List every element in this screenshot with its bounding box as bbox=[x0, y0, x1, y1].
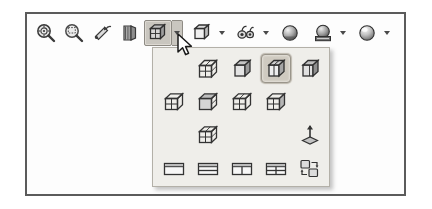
hide-show-items-icon bbox=[235, 22, 257, 44]
flyout-item-front-view[interactable] bbox=[227, 54, 257, 83]
flyout-item-normal-to[interactable] bbox=[193, 54, 223, 83]
flyout-item-single-view[interactable] bbox=[159, 154, 189, 183]
two-view-vertical-icon bbox=[230, 157, 254, 181]
hide-show-items-button[interactable] bbox=[232, 20, 260, 46]
flyout-cell-empty bbox=[227, 120, 257, 149]
chevron-down-icon bbox=[263, 31, 269, 35]
previous-view-button[interactable] bbox=[88, 20, 116, 46]
toolbar-item-view-orientation[interactable] bbox=[144, 19, 183, 47]
toolbar-item-zoom-to-area[interactable] bbox=[60, 19, 88, 47]
trimetric-view-icon bbox=[298, 57, 322, 81]
hide-show-items-dropdown-arrow[interactable] bbox=[260, 20, 271, 46]
view-toolbar bbox=[32, 18, 392, 48]
flyout-item-right-view[interactable] bbox=[227, 87, 257, 116]
view-settings-dropdown-arrow[interactable] bbox=[381, 20, 392, 46]
normal-to-axis-icon bbox=[298, 123, 322, 147]
view-orientation-button[interactable] bbox=[144, 20, 172, 46]
flyout-item-four-view[interactable] bbox=[261, 154, 291, 183]
view-orientation-dropdown-arrow[interactable] bbox=[172, 20, 183, 46]
flyout-item-normal-to-axis[interactable] bbox=[295, 120, 325, 149]
isometric-view-icon bbox=[264, 57, 288, 81]
single-view-icon bbox=[162, 157, 186, 181]
flyout-cell-empty bbox=[295, 87, 325, 116]
flyout-item-bottom-view[interactable] bbox=[193, 120, 223, 149]
top-view-icon bbox=[196, 90, 220, 114]
view-orientation-icon bbox=[147, 22, 169, 44]
left-view-icon bbox=[162, 90, 186, 114]
view-settings-button[interactable] bbox=[353, 20, 381, 46]
flyout-item-two-view-vertical[interactable] bbox=[227, 154, 257, 183]
flyout-item-left-view[interactable] bbox=[159, 87, 189, 116]
edit-appearance-button[interactable] bbox=[276, 20, 304, 46]
zoom-to-area-button[interactable] bbox=[60, 20, 88, 46]
two-view-horizontal-icon bbox=[196, 157, 220, 181]
edit-appearance-icon bbox=[279, 22, 301, 44]
toolbar-item-edit-appearance[interactable] bbox=[276, 19, 304, 47]
toolbar-item-section-view[interactable] bbox=[116, 19, 144, 47]
screenshot-root bbox=[0, 0, 432, 209]
flyout-cell-empty bbox=[159, 120, 189, 149]
toolbar-item-zoom-to-fit[interactable] bbox=[32, 19, 60, 47]
display-style-dropdown-arrow[interactable] bbox=[216, 20, 227, 46]
toolbar-item-previous-view[interactable] bbox=[88, 19, 116, 47]
section-view-icon bbox=[119, 22, 141, 44]
toolbar-item-display-style[interactable] bbox=[188, 19, 227, 47]
flyout-item-back-view[interactable] bbox=[261, 87, 291, 116]
apply-scene-button[interactable] bbox=[309, 20, 337, 46]
four-view-icon bbox=[264, 157, 288, 181]
flyout-grid bbox=[157, 52, 327, 184]
view-orientation-flyout-panel bbox=[152, 47, 330, 187]
section-view-button[interactable] bbox=[116, 20, 144, 46]
display-style-icon bbox=[191, 22, 213, 44]
flyout-item-link-views[interactable] bbox=[295, 154, 325, 183]
back-view-icon bbox=[264, 90, 288, 114]
chevron-down-icon bbox=[340, 31, 346, 35]
zoom-to-fit-icon bbox=[35, 22, 57, 44]
bottom-view-icon bbox=[196, 123, 220, 147]
zoom-to-fit-button[interactable] bbox=[32, 20, 60, 46]
chevron-down-icon bbox=[219, 31, 225, 35]
flyout-cell-empty bbox=[159, 54, 189, 83]
flyout-item-top-view[interactable] bbox=[193, 87, 223, 116]
chevron-down-icon bbox=[384, 31, 390, 35]
toolbar-item-hide-show-items[interactable] bbox=[232, 19, 271, 47]
link-views-icon bbox=[298, 157, 322, 181]
zoom-to-area-icon bbox=[63, 22, 85, 44]
chevron-down-icon bbox=[174, 31, 180, 35]
previous-view-icon bbox=[91, 22, 113, 44]
view-settings-icon bbox=[356, 22, 378, 44]
flyout-item-isometric-view[interactable] bbox=[261, 54, 291, 83]
apply-scene-dropdown-arrow[interactable] bbox=[337, 20, 348, 46]
normal-to-icon bbox=[196, 57, 220, 81]
front-view-icon bbox=[230, 57, 254, 81]
flyout-cell-empty bbox=[261, 120, 291, 149]
apply-scene-icon bbox=[312, 22, 334, 44]
toolbar-item-view-settings[interactable] bbox=[353, 19, 392, 47]
right-view-icon bbox=[230, 90, 254, 114]
display-style-button[interactable] bbox=[188, 20, 216, 46]
flyout-item-two-view-horizontal[interactable] bbox=[193, 154, 223, 183]
toolbar-item-apply-scene[interactable] bbox=[309, 19, 348, 47]
flyout-item-trimetric-view[interactable] bbox=[295, 54, 325, 83]
